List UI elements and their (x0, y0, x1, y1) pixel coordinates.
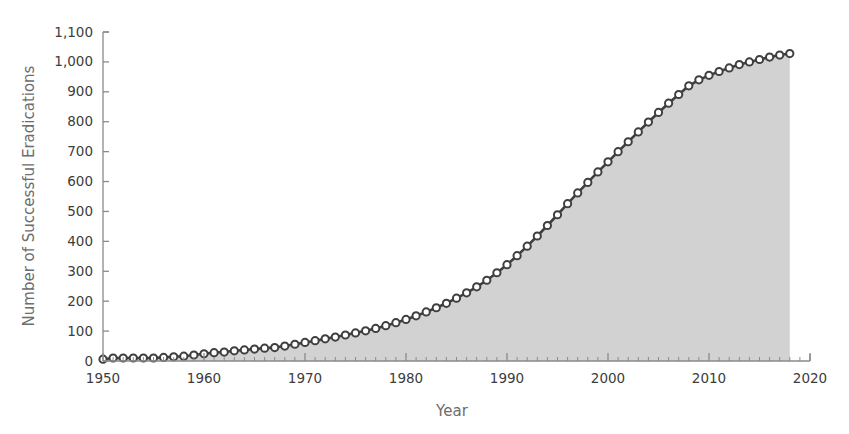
data-point-marker (382, 322, 389, 329)
data-point-marker (705, 72, 712, 79)
y-axis-title: Number of Successful Eradications (20, 65, 38, 326)
data-point-marker (665, 100, 672, 107)
data-point-marker (544, 222, 551, 229)
data-point-marker (493, 269, 500, 276)
data-point-marker (524, 243, 531, 250)
data-point-marker (685, 82, 692, 89)
y-tick-label: 1,000 (54, 53, 93, 69)
y-tick-label: 400 (67, 233, 93, 249)
data-point-marker (463, 289, 470, 296)
data-point-marker (372, 325, 379, 332)
data-point-marker (736, 61, 743, 68)
data-point-marker (655, 109, 662, 116)
data-point-marker (312, 337, 319, 344)
data-point-marker (776, 51, 783, 58)
y-tick-label: 0 (84, 353, 93, 369)
x-tick-label: 2020 (793, 370, 827, 386)
data-point-marker (625, 138, 632, 145)
y-tick-label: 100 (67, 323, 93, 339)
data-point-marker (483, 277, 490, 284)
y-tick-label: 900 (67, 83, 93, 99)
data-point-marker (756, 56, 763, 63)
data-point-marker (635, 128, 642, 135)
data-point-marker (746, 58, 753, 65)
data-point-marker (352, 329, 359, 336)
y-tick-label: 1,100 (54, 24, 93, 40)
data-point-marker (402, 316, 409, 323)
data-point-marker (332, 333, 339, 340)
data-point-marker (695, 76, 702, 83)
data-point-marker (645, 118, 652, 125)
data-point-marker (211, 349, 218, 356)
data-point-marker (726, 64, 733, 71)
data-point-marker (604, 158, 611, 165)
y-tick-label: 600 (67, 173, 93, 189)
x-tick-label: 1960 (187, 370, 221, 386)
data-point-marker (766, 54, 773, 61)
data-point-marker (413, 312, 420, 319)
y-tick-label: 700 (67, 143, 93, 159)
data-point-marker (716, 68, 723, 75)
data-point-marker (342, 331, 349, 338)
data-point-marker (362, 327, 369, 334)
data-point-marker (221, 348, 228, 355)
data-point-marker (574, 189, 581, 196)
data-point-marker (503, 261, 510, 268)
data-point-marker (291, 341, 298, 348)
y-tick-label: 300 (67, 263, 93, 279)
x-axis-title: Year (435, 402, 469, 420)
x-tick-label: 1990 (490, 370, 524, 386)
data-point-marker (554, 211, 561, 218)
data-point-marker (584, 179, 591, 186)
x-tick-label: 2000 (591, 370, 625, 386)
data-point-marker (443, 300, 450, 307)
eradications-area-chart: 01002003004005006007008009001,0001,10019… (0, 0, 849, 434)
data-point-marker (433, 304, 440, 311)
data-point-marker (241, 346, 248, 353)
data-point-marker (675, 91, 682, 98)
data-point-marker (534, 232, 541, 239)
data-point-marker (423, 308, 430, 315)
data-point-marker (231, 347, 238, 354)
x-tick-label: 1980 (389, 370, 423, 386)
x-tick-label: 2010 (692, 370, 726, 386)
data-point-marker (322, 335, 329, 342)
data-point-marker (261, 345, 268, 352)
x-tick-label: 1950 (86, 370, 120, 386)
chart-page: 01002003004005006007008009001,0001,10019… (0, 0, 849, 434)
data-point-marker (594, 168, 601, 175)
data-point-marker (251, 345, 258, 352)
data-point-marker (615, 148, 622, 155)
data-point-marker (453, 295, 460, 302)
data-point-marker (786, 50, 793, 57)
y-tick-label: 200 (67, 293, 93, 309)
data-point-marker (271, 344, 278, 351)
data-point-marker (281, 342, 288, 349)
y-tick-label: 800 (67, 113, 93, 129)
area-fill (103, 54, 790, 361)
x-tick-label: 1970 (288, 370, 322, 386)
data-point-marker (392, 319, 399, 326)
y-tick-label: 500 (67, 203, 93, 219)
data-point-marker (473, 283, 480, 290)
data-point-marker (301, 339, 308, 346)
data-point-marker (564, 200, 571, 207)
plot-area (99, 50, 793, 363)
data-point-marker (514, 252, 521, 259)
